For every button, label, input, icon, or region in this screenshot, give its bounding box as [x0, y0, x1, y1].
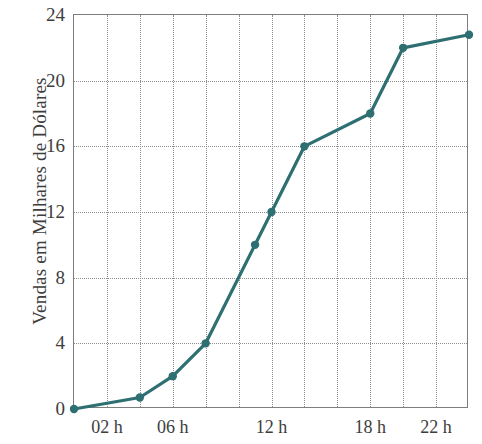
series-markers	[70, 31, 473, 414]
data-point-marker	[267, 208, 275, 216]
y-tick-label: 0	[17, 398, 65, 420]
y-tick-label: 20	[17, 70, 65, 92]
y-tick-label: 8	[17, 267, 65, 289]
data-point-marker	[70, 405, 78, 413]
sales-line-series	[74, 15, 469, 409]
data-point-marker	[136, 393, 144, 401]
data-point-marker	[169, 372, 177, 380]
x-tick-label: 12 h	[256, 417, 288, 438]
plot-area: 04812162024 02 h06 h12 h18 h22 h	[73, 14, 468, 408]
data-point-marker	[300, 142, 308, 150]
data-point-marker	[465, 31, 473, 39]
data-point-marker	[251, 241, 259, 249]
x-tick-label: 18 h	[355, 417, 387, 438]
data-point-marker	[366, 109, 374, 117]
chart-figure: Vendas em Milhares de Dólares 0481216202…	[0, 0, 482, 444]
x-tick-label: 22 h	[420, 417, 452, 438]
y-tick-label: 16	[17, 135, 65, 157]
series-polyline	[74, 35, 469, 409]
y-tick-label: 24	[17, 4, 65, 26]
y-tick-label: 12	[17, 201, 65, 223]
data-point-marker	[201, 339, 209, 347]
data-point-marker	[399, 44, 407, 52]
y-tick-label: 4	[17, 332, 65, 354]
x-tick-label: 06 h	[157, 417, 189, 438]
x-tick-label: 02 h	[91, 417, 123, 438]
